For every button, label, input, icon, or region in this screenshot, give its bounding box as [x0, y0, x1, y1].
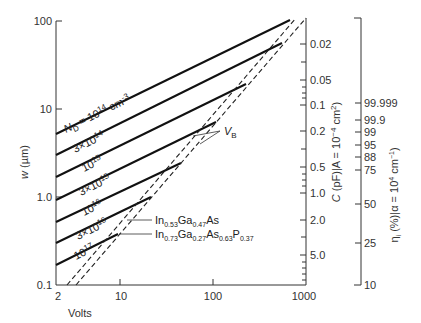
eta-tick: 50 [364, 198, 376, 210]
c-tick: 0.1 [310, 99, 325, 111]
capacitance-tick-labels: 0.02 0.05 0.1 0.2 0.5 1.0 2.0 5.0 [310, 38, 331, 261]
c-tick: 0.5 [310, 161, 325, 173]
chart-canvas: 100 10 1.0 0.1 w (µm) 2 10 100 1000 Volt… [0, 0, 421, 323]
x-tick-labels: 2 10 100 1000 [55, 290, 316, 302]
c-tick: 0.02 [310, 38, 331, 50]
c-tick: 0.2 [310, 125, 325, 137]
y-tick-0.1: 0.1 [37, 279, 52, 291]
left-y-tick-labels: 100 10 1.0 0.1 [34, 15, 52, 291]
eta-tick: 75 [364, 164, 376, 176]
material-annotations: In0.53Ga0.47As In0.73Ga0.27As0.63P0.37 [119, 214, 254, 242]
x-tick-10: 10 [115, 290, 127, 302]
material-ingaasp-label: In0.73Ga0.27As0.63P0.37 [155, 228, 254, 242]
x-tick-100: 100 [204, 290, 222, 302]
x-axis-title: Volts [68, 307, 92, 319]
eta-tick: 99.9 [364, 114, 385, 126]
label-3e16: 3×1016 [73, 215, 109, 242]
eta-tick: 88 [364, 151, 376, 163]
efficiency-axis [354, 18, 361, 285]
breakdown-line-ingaasp [76, 18, 306, 285]
breakdown-lines [67, 18, 306, 285]
label-1e17: 1017 [71, 241, 96, 262]
efficiency-axis-title: ηi (%)|α = 104 cm−1) [388, 147, 402, 242]
eta-tick: 99 [364, 126, 376, 138]
capacitance-axis-title: C (pF)|A = 10−4 cm2) [329, 102, 342, 203]
breakdown-line-ingaas [67, 18, 296, 285]
c-tick: 2.0 [310, 214, 325, 226]
vb-label: VB [224, 125, 237, 140]
x-axis [56, 279, 306, 285]
vb-annotation: VB [193, 125, 237, 144]
c-tick: 0.05 [310, 74, 331, 86]
material-ingaas-label: In0.53Ga0.47As [155, 214, 219, 228]
y-tick-100: 100 [34, 15, 52, 27]
eta-tick: 95 [364, 139, 376, 151]
y-axis-title: w (µm) [18, 145, 30, 179]
x-tick-2: 2 [55, 290, 61, 302]
capacitance-axis [300, 18, 306, 285]
x-tick-1000: 1000 [292, 290, 316, 302]
y-tick-10: 10 [40, 103, 52, 115]
eta-tick: 10 [364, 279, 376, 291]
eta-tick: 25 [364, 237, 376, 249]
c-tick: 5.0 [310, 249, 325, 261]
eta-tick: 99.999 [364, 97, 398, 109]
c-tick: 1.0 [310, 187, 325, 199]
y-tick-1: 1.0 [37, 191, 52, 203]
label-3e15: 3×1015 [76, 171, 112, 198]
label-1e16: 1016 [79, 197, 104, 218]
